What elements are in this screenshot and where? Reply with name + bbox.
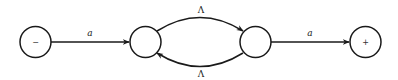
state-start: − bbox=[20, 27, 51, 58]
state-q1 bbox=[130, 27, 161, 58]
edge-q2-q1 bbox=[157, 53, 243, 67]
state-circle bbox=[130, 27, 161, 58]
state-circle bbox=[240, 27, 271, 58]
final-sign: + bbox=[362, 38, 369, 47]
state-final: + bbox=[350, 27, 381, 58]
edge-label-q0-q1: a bbox=[87, 28, 92, 38]
edge-label-q2-q3: a bbox=[307, 28, 312, 38]
edge-label-q1-q2: Λ bbox=[197, 5, 205, 15]
edge-label-q2-q1: Λ bbox=[197, 69, 205, 79]
state-q2 bbox=[240, 27, 271, 58]
automaton-diagram: a Λ Λ a − + bbox=[0, 0, 398, 80]
edge-q1-q2 bbox=[157, 18, 243, 32]
start-sign: − bbox=[32, 38, 39, 47]
